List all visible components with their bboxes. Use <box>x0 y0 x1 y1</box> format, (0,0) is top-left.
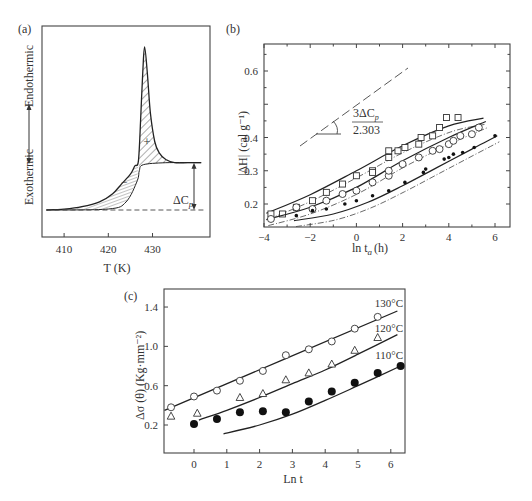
panel-a-delta-cp-label: ΔCp <box>173 193 194 209</box>
panel-b-point-square <box>402 144 408 150</box>
panel-c-point-circle <box>236 377 243 384</box>
panel-a-endothermic-area <box>138 47 201 171</box>
panel-c-point-triangle <box>236 393 244 400</box>
panel-c-series-label-130: 130°C <box>375 297 403 309</box>
panel-b-point-circle <box>436 146 443 153</box>
panel-c-point-triangle <box>305 369 313 376</box>
panel-c-point-circle <box>351 325 358 332</box>
panel-c-xtick-label: 5 <box>355 458 361 470</box>
panel-c-fit-line-triangle <box>199 335 398 421</box>
panel-b-point-square <box>310 198 316 204</box>
panel-b-y-axis-title: |ΔH| (cal g⁻¹) <box>236 111 250 176</box>
panel-b-point-dot <box>422 171 426 175</box>
panel-b-point-circle <box>267 215 274 222</box>
panel-b-dashdot-line-dot <box>296 142 499 227</box>
panel-b-point-dot <box>493 134 497 138</box>
slope-angle-icon <box>316 121 341 134</box>
panel-c-xtick-label: 0 <box>191 458 197 470</box>
panel-c-point-dot <box>351 379 359 387</box>
panel-c-point-dot <box>259 407 267 415</box>
panel-c-point-dot <box>328 388 336 396</box>
panel-b-point-circle <box>353 187 360 194</box>
panel-c-series-label-120: 120°C <box>375 322 403 334</box>
panel-b-xtick-label: −4 <box>258 231 270 243</box>
panel-b-point-dot <box>447 156 451 160</box>
panel-c-xtick-label: 1 <box>224 458 230 470</box>
panel-b-point-square <box>323 189 329 195</box>
panel-b-point-dot <box>472 146 476 150</box>
panel-a-x-ticks <box>64 233 152 237</box>
panel-b-point-circle <box>415 154 422 161</box>
panel-b-point-dot <box>387 189 391 193</box>
panel-c-xtick-label: 6 <box>388 458 394 470</box>
panel-c-ytick-label: 1.4 <box>144 301 158 313</box>
panel-b-point-square <box>437 125 443 131</box>
panel-a-xtick-label: 410 <box>56 243 73 255</box>
panel-c-point-circle <box>191 393 198 400</box>
panel-b-point-square <box>370 169 376 175</box>
panel-c-fit-line-circle <box>165 311 398 410</box>
panel-b-point-circle <box>429 147 436 154</box>
panel-b-point-dot <box>403 181 407 185</box>
panel-c-plot-area <box>165 311 405 434</box>
panel-c-xtick-label: 4 <box>322 458 328 470</box>
panel-c-frame <box>164 289 405 453</box>
panel-b-point-dot <box>325 207 329 211</box>
panel-b-point-circle <box>369 179 376 186</box>
panel-b: (b) −4−202460.20.30.40.6 |ΔH| (cal g⁻¹) … <box>226 22 510 257</box>
panel-b-point-dot <box>295 214 299 218</box>
panel-c-point-dot <box>374 369 382 377</box>
panel-b-point-dot <box>343 202 347 206</box>
panel-a-minus-sign: − <box>121 176 127 188</box>
panel-a-xtick-label: 430 <box>144 243 161 255</box>
panel-b-point-circle <box>450 137 457 144</box>
panel-b-point-square <box>418 135 424 141</box>
panel-b-point-circle <box>339 191 346 198</box>
panel-b-xtick-label: 2 <box>400 231 406 243</box>
panel-b-ytick-label: 0.2 <box>244 198 258 210</box>
panel-b-point-square <box>386 154 392 160</box>
panel-b-point-square <box>353 173 359 179</box>
panel-b-x-axis-title: ln ta(h) <box>352 241 388 257</box>
panel-c-series-label-110: 110°C <box>375 349 403 361</box>
panel-c-point-dot <box>236 408 244 416</box>
panel-b-slope-denominator: 2.303 <box>353 123 380 137</box>
panel-b-xtick-label: 4 <box>446 231 452 243</box>
panel-c-point-triangle <box>374 334 382 341</box>
panel-c-point-triangle <box>282 376 290 383</box>
figure: (a) 410 420 430 T (K) Exothermic Endothe… <box>0 0 532 501</box>
panel-c-point-triangle <box>259 390 267 397</box>
panel-a-plus-sign: + <box>143 134 150 149</box>
panel-a: (a) 410 420 430 T (K) Exothermic Endothe… <box>18 22 210 275</box>
panel-c-point-circle <box>259 367 266 374</box>
panel-b-point-square <box>416 141 422 147</box>
panel-b-xtick-label: −2 <box>304 231 316 243</box>
panel-b-point-dot <box>355 199 359 203</box>
panel-c-point-dot <box>190 420 198 428</box>
panel-c-point-circle <box>213 387 220 394</box>
panel-b-xtick-label: 6 <box>492 231 498 243</box>
panel-b-point-circle <box>399 161 406 168</box>
panel-c-xtick-label: 3 <box>290 458 296 470</box>
panel-c-point-triangle <box>167 412 175 419</box>
panel-c-point-circle <box>282 352 289 359</box>
panel-b-point-dot <box>452 152 456 156</box>
panel-b-point-circle <box>385 167 392 174</box>
panel-b-slope-numerator: 3ΔCp <box>353 106 379 122</box>
panel-c-point-circle <box>305 346 312 353</box>
panel-c-point-dot <box>282 408 290 416</box>
panel-b-point-square <box>430 133 436 139</box>
panel-b-plot-area <box>266 115 499 227</box>
panel-c-point-circle <box>328 338 335 345</box>
panel-b-point-square <box>395 148 401 154</box>
panel-b-point-circle <box>457 132 464 139</box>
panel-c-point-triangle <box>328 360 336 367</box>
panel-a-label: (a) <box>18 22 31 36</box>
panel-b-point-dot <box>424 167 428 171</box>
panel-b-point-square <box>443 115 449 121</box>
panel-b-point-square <box>340 181 346 187</box>
panel-c-point-circle <box>168 404 175 411</box>
panel-c-point-dot <box>213 415 221 423</box>
panel-b-point-dot <box>371 194 375 198</box>
panel-b-point-square <box>386 148 392 154</box>
